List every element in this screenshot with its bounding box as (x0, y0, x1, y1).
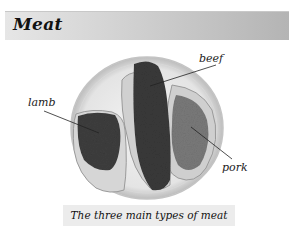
lamb-label: lamb (28, 96, 56, 109)
section-header-bar: Meat (5, 11, 289, 40)
figure-caption: The three main types of meat (63, 205, 235, 226)
beef-label: beef (199, 52, 223, 65)
meat-plate-photo (0, 40, 303, 205)
lamb-chop (73, 110, 126, 192)
section-title: Meat (13, 14, 63, 34)
pork-label: pork (222, 161, 248, 174)
